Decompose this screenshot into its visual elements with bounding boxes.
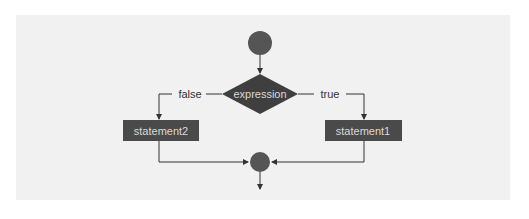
decision-label: expression xyxy=(233,88,286,100)
merge-node xyxy=(250,152,270,172)
statement2-node: statement2 xyxy=(123,120,199,141)
statement1-node: statement1 xyxy=(325,120,402,141)
edge-true: true xyxy=(298,88,364,119)
true-label: true xyxy=(321,88,340,100)
statement1-label: statement1 xyxy=(336,125,390,137)
edge-statement2-to-merge xyxy=(159,141,248,162)
statement2-label: statement2 xyxy=(134,125,188,137)
decision-node: expression xyxy=(222,74,298,114)
start-node xyxy=(248,31,272,55)
edge-false: false xyxy=(159,88,222,119)
false-label: false xyxy=(178,88,201,100)
flowchart: expression false true statement2 stateme… xyxy=(0,0,529,219)
edge-statement1-to-merge xyxy=(272,141,364,162)
